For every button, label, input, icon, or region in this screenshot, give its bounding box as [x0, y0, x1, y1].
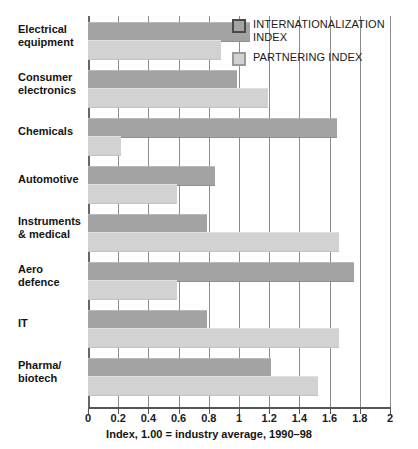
legend-item-partnering: PARTNERING INDEX [232, 51, 416, 66]
grid-line [330, 16, 331, 408]
category-label: Instruments& medical [18, 215, 86, 240]
category-label-line: IT [18, 317, 28, 329]
category-label-line: Consumer [18, 71, 72, 83]
x-axis-tick-label: 2 [387, 412, 393, 424]
bar-internationalization [88, 118, 337, 138]
bar-internationalization [88, 22, 250, 42]
plot-area [88, 16, 390, 408]
bar-chart: ElectricalequipmentConsumerelectronicsCh… [0, 0, 418, 449]
legend-swatch-internationalization-icon [232, 19, 246, 33]
bar-partnering [88, 280, 177, 300]
x-axis-tick-label: 1.2 [262, 412, 277, 424]
category-label: IT [18, 317, 86, 330]
category-label: Pharma/biotech [18, 359, 86, 384]
x-axis-tick-label: 1.6 [322, 412, 337, 424]
x-axis-tick-label: 1.4 [292, 412, 307, 424]
grid-line [360, 16, 361, 408]
category-label-line: Pharma/ [18, 359, 61, 371]
chart-legend: INTERNATIONALIZATIONINDEX PARTNERING IND… [232, 18, 416, 73]
x-axis-tick-label: 0 [85, 412, 91, 424]
category-label: Consumerelectronics [18, 71, 86, 96]
legend-label-partnering: PARTNERING INDEX [253, 51, 362, 64]
category-label-line: Aero [18, 263, 43, 275]
bar-partnering [88, 88, 268, 108]
bar-internationalization [88, 262, 354, 282]
x-axis-tick-label: 0.8 [201, 412, 216, 424]
category-label: Electricalequipment [18, 23, 86, 48]
category-label: Chemicals [18, 125, 86, 138]
category-label-line: equipment [18, 36, 74, 48]
category-label: Automotive [18, 173, 86, 186]
category-label-line: Instruments [18, 215, 81, 227]
bar-internationalization [88, 358, 271, 378]
bar-partnering [88, 328, 339, 348]
bar-internationalization [88, 214, 207, 234]
bar-partnering [88, 40, 221, 60]
x-axis-tick-label: 0.4 [141, 412, 156, 424]
grid-line [299, 16, 300, 408]
bar-partnering [88, 376, 318, 396]
legend-label-internationalization: INTERNATIONALIZATIONINDEX [253, 18, 385, 44]
category-label-line: & medical [18, 228, 70, 240]
legend-swatch-partnering-icon [232, 52, 246, 66]
bar-internationalization [88, 70, 237, 90]
grid-line [239, 16, 240, 408]
legend-item-internationalization: INTERNATIONALIZATIONINDEX [232, 18, 416, 44]
x-axis-tick-label: 1.8 [352, 412, 367, 424]
category-label-line: defence [18, 276, 60, 288]
category-label-line: Electrical [18, 23, 67, 35]
x-axis-tick-label: 0.2 [111, 412, 126, 424]
category-label-line: biotech [18, 372, 57, 384]
grid-line [390, 16, 391, 408]
bar-partnering [88, 184, 177, 204]
grid-line [269, 16, 270, 408]
category-label-line: Automotive [18, 173, 79, 185]
category-label-line: electronics [18, 84, 76, 96]
x-axis-tick-label: 0.6 [171, 412, 186, 424]
bar-partnering [88, 136, 121, 156]
axis-caption: Index, 1.00 = industry average, 1990–98 [0, 428, 418, 440]
category-label-line: Chemicals [18, 125, 73, 137]
x-axis-tick-label: 1 [236, 412, 242, 424]
bar-internationalization [88, 166, 215, 186]
bar-internationalization [88, 310, 207, 330]
category-label: Aerodefence [18, 263, 86, 288]
bar-partnering [88, 232, 339, 252]
